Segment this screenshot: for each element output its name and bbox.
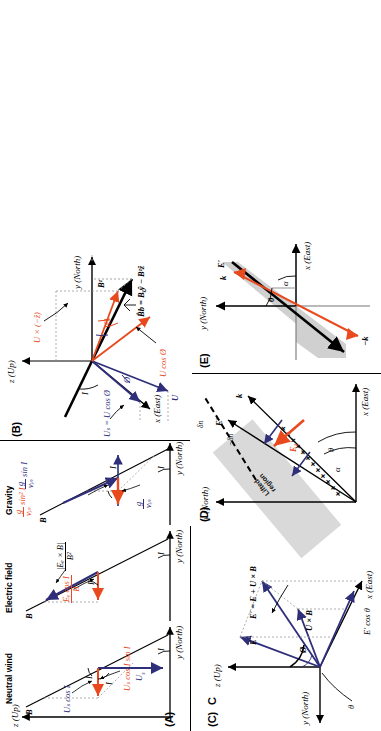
panel-e: (E) y (North) x (Ea <box>192 234 381 372</box>
panel-d-graphics: + + + + + + + + + + + + <box>192 374 381 524</box>
panel-d-theta: θ <box>326 448 336 452</box>
panel-d-k: k <box>234 394 244 398</box>
panel-e-theta: θ <box>266 298 276 302</box>
panel-b-b-vector: B̂b = Bᵧŷ − Bᶻẑ <box>136 266 146 317</box>
panel-c-uxb: U × B <box>304 610 314 631</box>
panel-c-divider-top <box>190 526 191 731</box>
panel-d-axis-y: y (North) <box>200 487 210 520</box>
panel-c-axis-y: y (North) <box>300 692 310 725</box>
panel-a-g-sin2-tail: sin² I <box>17 487 27 504</box>
panel-a-g-sin-tail: sin I <box>19 462 29 477</box>
panel-a-angle-i-nw-1: I <box>84 676 94 679</box>
panel-e-estar: E′ <box>216 260 226 268</box>
panel-c-axis-x: x (East) <box>364 571 374 599</box>
panel-c-e-label: E <box>248 639 258 645</box>
panel-a-angle-i-g-2: I <box>156 466 166 469</box>
panel-a-angle-i-g-1: I <box>108 466 118 469</box>
figure-root: (A) Neutral wind Electric field Gravity <box>0 0 381 731</box>
panel-b-u-cos-phi: U cos Ø <box>158 349 168 377</box>
panel-a: (A) Neutral wind Electric field Gravity <box>0 441 190 731</box>
panel-a-axis-z: z (Up) <box>10 704 20 727</box>
panel-b-axis-x: x (East) <box>152 395 162 423</box>
panel-a-g-over-nu-den: νᵢₙ <box>144 499 153 509</box>
panel-e-axis-y: y (North) <box>198 297 208 330</box>
panel-a-g-sin2-den: νᵢₙ <box>24 507 33 517</box>
panel-e-alpha: α <box>280 282 290 286</box>
panel-d-dn-negative: −δn <box>226 434 235 446</box>
panel-e-axis-x: x (East) <box>302 242 312 270</box>
panel-b-u-cross-minus-z: U × (−ẑ) <box>32 312 42 343</box>
panel-d-dn-positive: δn <box>196 421 205 428</box>
panel-c-graphics <box>192 526 381 731</box>
panel-a-e-cos-frac: Eₑ cos I B <box>62 575 80 603</box>
panel-e-k: k <box>218 276 228 280</box>
panel-c-estar-eq: E′ = E + U × B <box>248 566 258 619</box>
panel-b-angle-phi-red: Ø <box>102 319 112 325</box>
panel-a-angle-i-nw-3: I <box>156 648 166 651</box>
panel-b-bz: Bᶻ <box>96 280 106 288</box>
panel-d: (D) + + + + + + + + + + + + <box>192 374 381 524</box>
panel-c-axis-z: z (Up) <box>212 664 222 687</box>
panel-b: (B) <box>0 234 190 439</box>
panel-e-minus-k: −k <box>360 337 370 346</box>
panel-c: (C) C <box>192 526 381 731</box>
panel-d-e1: E₁ <box>288 443 298 452</box>
panel-e-graphics <box>192 234 381 372</box>
panel-a-us-u: U <box>134 675 144 681</box>
panel-d-estar: E′ <box>214 418 224 426</box>
panel-a-axis-y-neutral: y (North) <box>174 626 184 659</box>
panel-b-divider <box>0 440 190 441</box>
panel-e-divider <box>192 373 381 374</box>
panel-a-exb-den: B² <box>66 542 75 571</box>
panel-a-g-sin-den: νᵢₙ <box>26 479 35 489</box>
panel-a-e-cos-den: B <box>72 575 81 603</box>
panel-b-axis-z: z (Up) <box>6 360 16 383</box>
panel-a-g-sin2: g νᵢₙ sin² I <box>14 487 32 517</box>
panel-b-angle-i: I <box>80 392 90 395</box>
panel-b-us-eq: Uₛ = U cos Ø <box>102 390 112 437</box>
panel-a-axis-y-efield: y (North) <box>174 530 184 563</box>
panel-d-alpha: α <box>332 468 342 472</box>
panel-a-us-cos-i: Uₛ cos I <box>62 685 72 713</box>
panel-a-exb-frac: |Eₑ × B| B² <box>56 542 74 571</box>
panel-a-axis-y-gravity: y (North) <box>174 442 184 475</box>
panel-a-us-sub: s <box>140 673 146 675</box>
panel-c-theta: θ <box>346 705 356 709</box>
panel-a-angle-i-ef-2: I <box>156 552 166 555</box>
panel-b-angle-phi-blue: Ø <box>122 377 132 383</box>
panel-d-axis-x: x (East) <box>360 388 370 416</box>
panel-b-axis-y: y (North) <box>72 256 82 289</box>
panel-c-estar-cos: E′ cos θ <box>362 608 372 635</box>
panel-a-b-label-efield: B <box>24 613 34 619</box>
panel-a-angle-i-ef-1: I <box>86 582 96 585</box>
panel-a-us-cos-i-sin-i: Uₛ cos I sin I <box>122 646 132 691</box>
panel-a-angle-i-nw-2: I <box>104 682 114 685</box>
panel-a-g-sin: g νᵢₙ sin I <box>16 462 34 489</box>
panel-a-b-label-gravity: B <box>38 517 48 523</box>
panel-a-us-label: Us <box>134 673 146 681</box>
panel-b-u: U <box>170 395 180 401</box>
panel-a-b-label-neutral: B <box>24 709 34 715</box>
panel-c-phi: Ø <box>298 647 308 653</box>
panel-a-g-over-nu: g νᵢₙ <box>134 499 152 509</box>
